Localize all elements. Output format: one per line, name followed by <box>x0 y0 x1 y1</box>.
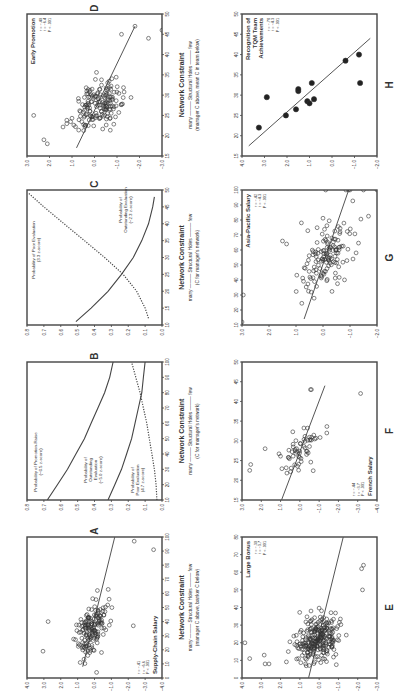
data-point <box>311 97 316 102</box>
x-tick-label: 80 <box>234 534 239 540</box>
x-tick-label: 70 <box>234 232 239 238</box>
regression-line <box>282 386 325 500</box>
y-tick-label: 0.2 <box>126 329 131 336</box>
data-point <box>361 588 365 592</box>
y-tick-label: 0.1 <box>143 504 148 511</box>
data-point <box>80 636 84 640</box>
data-point <box>78 661 82 665</box>
data-point <box>77 99 81 103</box>
x-axis-title: Network Constraint <box>178 398 185 463</box>
x-tick-label: 0 <box>165 676 170 679</box>
stat-text: P < .001 <box>361 482 365 496</box>
stat-text: t = −3.7 <box>357 483 361 496</box>
data-point <box>45 142 49 146</box>
data-point <box>299 661 303 665</box>
panel-letter: F <box>384 428 395 434</box>
x-axis-subtitle: (manager C above, mean C in team below) <box>195 39 200 131</box>
data-point <box>285 471 289 475</box>
data-point <box>329 253 333 257</box>
panel-letter: H <box>384 81 395 88</box>
x-tick-label: 40 <box>234 277 239 283</box>
y-tick-label: 0.7 <box>42 504 47 511</box>
data-point <box>291 430 295 434</box>
data-point <box>248 657 252 661</box>
y-tick-label: 3.0 <box>25 160 30 167</box>
x-tick-label: 30 <box>234 622 239 628</box>
data-point <box>32 114 36 118</box>
y-tick-label: 1.0 <box>298 682 303 689</box>
y-tick-label: 0.2 <box>126 504 131 511</box>
data-point <box>330 290 334 294</box>
data-point <box>109 619 113 623</box>
series-label: (3.3 z-score) <box>36 237 41 262</box>
data-point <box>104 123 108 127</box>
data-point <box>296 646 300 650</box>
data-point <box>325 234 329 238</box>
data-point <box>300 301 304 305</box>
stat-text: t = −4.3 <box>258 194 262 207</box>
data-point <box>356 52 361 57</box>
data-point <box>243 641 247 645</box>
panel-title: French Salary <box>367 456 373 496</box>
x-tick-label: 25 <box>234 458 239 464</box>
data-point <box>77 118 81 122</box>
y-tick-label: 3.0 <box>42 682 47 689</box>
data-point <box>256 125 261 130</box>
data-point <box>101 633 105 637</box>
x-tick-label: 60 <box>165 420 170 426</box>
data-point <box>359 392 363 396</box>
y-tick-label: −4.0 <box>160 682 165 692</box>
data-point <box>291 445 295 449</box>
y-tick-label: −1.0 <box>352 160 357 170</box>
series-label: (4.7 z-score) <box>140 467 145 492</box>
x-tick-label: 25 <box>234 112 239 118</box>
panel-letter: D <box>89 4 100 11</box>
y-tick-label: 2.0 <box>278 682 283 689</box>
y-tick-label: 1.0 <box>307 160 312 167</box>
data-point <box>313 437 317 441</box>
data-point <box>317 606 321 610</box>
data-point <box>312 296 316 300</box>
stat-text: P < .001 <box>263 541 267 555</box>
panel-c: C <box>27 180 164 327</box>
data-point <box>309 609 313 613</box>
data-point <box>106 588 110 592</box>
y-tick-label: 3.0 <box>262 160 267 167</box>
data-point <box>311 469 315 473</box>
x-tick-label: 35 <box>234 418 239 424</box>
x-tick-label: 90 <box>165 374 170 380</box>
data-point <box>316 248 320 252</box>
panel-letter: C <box>89 180 100 187</box>
data-point <box>362 563 366 567</box>
x-tick-label: 50 <box>165 11 170 17</box>
y-tick-label: 4.0 <box>240 160 245 167</box>
data-point <box>313 280 317 284</box>
x-tick-label: 50 <box>234 359 239 365</box>
data-point <box>114 75 118 79</box>
y-tick-label: 0.0 <box>160 504 165 511</box>
data-point <box>46 620 50 624</box>
stat-text: r = −.42 <box>254 194 258 207</box>
x-tick-label: 30 <box>234 92 239 98</box>
x-tick-label: 90 <box>165 548 170 554</box>
data-point <box>337 276 341 280</box>
series-label: (−6.5 z-score) <box>38 448 43 476</box>
data-point <box>294 290 298 294</box>
panel-g <box>240 188 379 327</box>
data-point <box>312 269 316 273</box>
data-point <box>333 276 337 280</box>
x-tick-label: 45 <box>234 379 239 385</box>
panel-title: Asia-Pacific Salary <box>245 193 251 247</box>
data-point <box>306 229 310 233</box>
data-point <box>337 639 341 643</box>
regression-line <box>249 38 371 146</box>
data-point <box>344 633 348 637</box>
data-point <box>100 83 104 87</box>
data-point <box>297 468 301 472</box>
data-point <box>358 80 363 85</box>
data-point <box>101 127 105 131</box>
data-point <box>317 658 321 662</box>
data-point <box>341 260 345 264</box>
y-tick-label: 0.0 <box>321 329 326 336</box>
panel-letter: A <box>89 527 100 534</box>
